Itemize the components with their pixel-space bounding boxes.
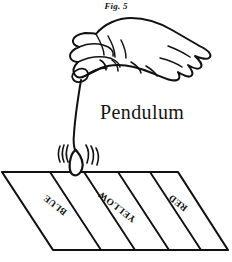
pendulum-bob [70,150,83,175]
figure-pendulum-over-colored-board: Fig. 5 BLUE YELLOW RED [0,0,232,262]
pendulum-annotation-label: Pendulum [100,101,184,124]
swing-marks-left [59,145,69,162]
pendulum-string [74,80,81,153]
swing-marks-right [86,145,98,165]
hand-and-pendulum [0,0,232,262]
